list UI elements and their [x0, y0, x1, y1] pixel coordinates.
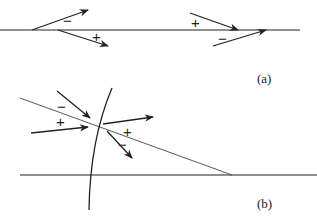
panel-b: − + + − (b) — [20, 88, 317, 211]
panel-a: − + + − (a) — [0, 10, 300, 86]
panel-label: (a) — [257, 71, 271, 86]
panel-label: (b) — [257, 196, 272, 211]
curved-boundary — [89, 88, 112, 210]
arrow-up-right — [32, 10, 88, 30]
diagram-canvas: − + + − (a) − + + − (b) — [0, 0, 317, 220]
minus-sign: − — [63, 12, 72, 29]
minus-sign: − — [218, 30, 227, 47]
plus-sign: + — [191, 14, 200, 31]
plus-sign: + — [92, 28, 101, 45]
minus-sign: − — [118, 136, 127, 153]
plus-sign: + — [56, 113, 65, 130]
